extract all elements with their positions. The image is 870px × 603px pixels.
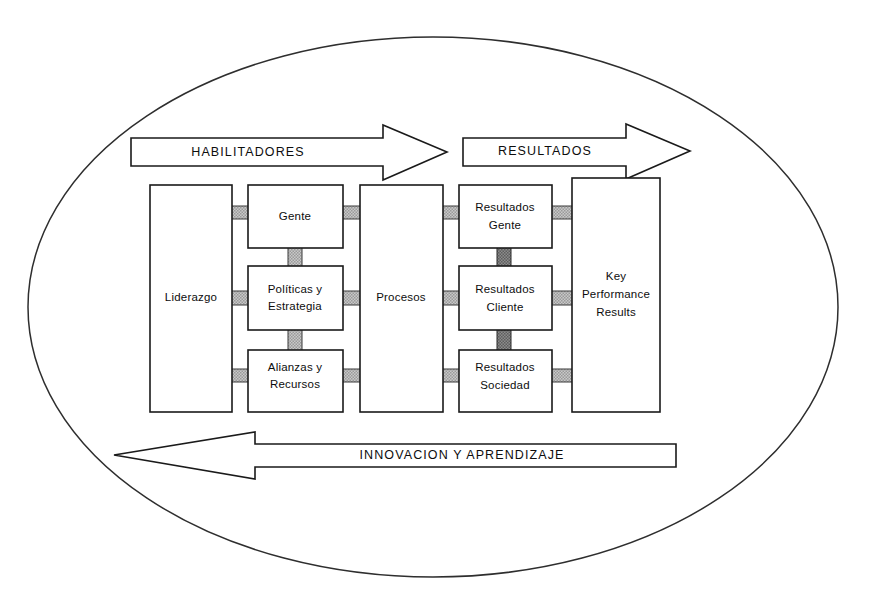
banner-innovacion-aprendizaje: INNOVACION Y APRENDIZAJE [114, 432, 676, 479]
resultados-sociedad-label-line1: Resultados [475, 361, 535, 373]
innovacion-aprendizaje-label: INNOVACION Y APRENDIZAJE [360, 448, 565, 462]
gente-label: Gente [279, 210, 311, 222]
box-resultados-gente: Resultados Gente [459, 185, 552, 248]
resultados-gente-label-line1: Resultados [475, 201, 535, 213]
resultados-cliente-box-shape [459, 266, 552, 330]
resultados-gente-label-line2: Gente [489, 219, 521, 231]
resultados-gente-box-shape [459, 185, 552, 248]
resultados-sociedad-label-line2: Sociedad [480, 379, 530, 391]
resultados-cliente-label-line1: Resultados [475, 283, 535, 295]
procesos-label: Procesos [376, 291, 426, 303]
banner-habilitadores: HABILITADORES [131, 125, 447, 180]
box-alianzas-recursos: Alianzas y Recursos [248, 350, 343, 412]
banner-resultados: RESULTADOS [463, 124, 690, 179]
politicas-estrategia-box-shape [248, 266, 343, 330]
box-liderazgo: Liderazgo [150, 185, 232, 412]
politicas-estrategia-label-line2: Estrategia [268, 300, 322, 312]
politicas-estrategia-label-line1: Políticas y [268, 283, 323, 295]
alianzas-recursos-label-line2: Recursos [270, 378, 320, 390]
box-politicas-estrategia: Políticas y Estrategia [248, 266, 343, 330]
diagram-canvas: HABILITADORES RESULTADOS Liderazgo Gente… [0, 0, 870, 603]
box-procesos: Procesos [360, 185, 443, 412]
efqm-excellence-model-diagram: HABILITADORES RESULTADOS Liderazgo Gente… [0, 0, 870, 603]
alianzas-recursos-label-line1: Alianzas y [268, 361, 322, 373]
key-performance-results-label-line3: Results [596, 306, 636, 318]
box-key-performance-results: Key Performance Results [572, 178, 660, 412]
liderazgo-label: Liderazgo [165, 291, 217, 303]
habilitadores-label: HABILITADORES [191, 145, 304, 159]
box-resultados-cliente: Resultados Cliente [459, 266, 552, 330]
box-gente: Gente [248, 185, 343, 248]
box-resultados-sociedad: Resultados Sociedad [459, 350, 552, 412]
resultados-cliente-label-line2: Cliente [486, 301, 523, 313]
resultados-label: RESULTADOS [498, 144, 592, 158]
key-performance-results-label-line2: Performance [582, 288, 650, 300]
key-performance-results-label-line1: Key [606, 270, 626, 282]
